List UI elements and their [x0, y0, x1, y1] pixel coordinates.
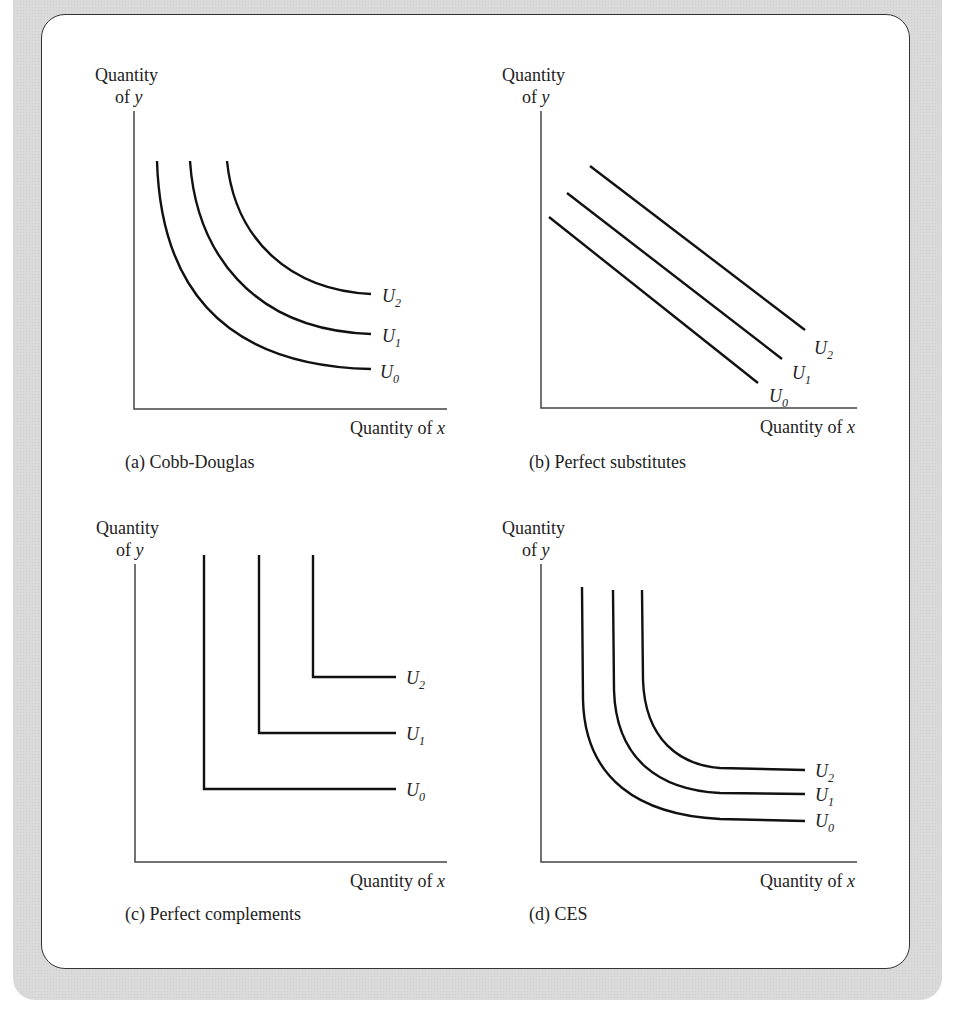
y-axis-label-var: of y	[522, 540, 550, 560]
curve-u2	[227, 161, 371, 294]
y-axis-label: Quantity	[502, 518, 565, 538]
curve-label-u0: U0	[769, 386, 788, 410]
y-axis-label-var: of y	[115, 87, 143, 107]
curve-u2	[642, 590, 805, 770]
curve-label-u2: U2	[815, 761, 834, 785]
chart-perfect-substitutes: Quantity of y U2 U1 U0 Quantity of x (b)…	[502, 65, 857, 473]
y-axis-label: Quantity	[502, 65, 565, 85]
curve-label-u1: U1	[406, 724, 425, 748]
curve-label-u0: U0	[380, 362, 399, 386]
curve-label-u1: U1	[382, 326, 401, 350]
curve-u1	[259, 555, 396, 733]
x-axis-label: Quantity of x	[760, 417, 855, 437]
curve-label-u0: U0	[815, 811, 834, 835]
panel-caption: (c) Perfect complements	[125, 904, 301, 925]
y-axis-label-var: of y	[522, 87, 550, 107]
axes	[541, 111, 857, 408]
curve-label-u2: U2	[814, 338, 833, 362]
curve-u1	[190, 161, 371, 334]
curve-label-u2: U2	[406, 668, 425, 692]
y-axis-label: Quantity	[96, 518, 159, 538]
panel-caption: (d) CES	[529, 904, 588, 925]
chart-cobb-douglas: Quantity of y U2 U1 U0 Quantity of x (a)…	[95, 65, 447, 473]
curve-u2	[590, 166, 805, 330]
x-axis-label: Quantity of x	[760, 871, 855, 891]
curve-u2	[313, 555, 396, 677]
curve-label-u2: U2	[382, 286, 401, 310]
x-axis-label: Quantity of x	[350, 418, 445, 438]
panel-caption: (a) Cobb-Douglas	[125, 452, 254, 473]
curve-u0	[549, 217, 758, 383]
curve-label-u0: U0	[406, 780, 425, 804]
indifference-curves-figure: Quantity of y U2 U1 U0 Quantity of x (a)…	[0, 0, 955, 1016]
axes	[134, 111, 447, 409]
chart-ces: Quantity of y U2 U1 U0 Quantity of x (d)…	[502, 518, 857, 925]
curve-u0	[204, 555, 396, 789]
curve-u1	[567, 193, 782, 359]
curve-u0	[157, 161, 371, 369]
x-axis-label: Quantity of x	[350, 871, 445, 891]
curve-label-u1: U1	[815, 785, 834, 809]
curve-label-u1: U1	[792, 363, 811, 387]
axes	[135, 564, 447, 862]
y-axis-label: Quantity	[95, 65, 158, 85]
y-axis-label-var: of y	[116, 540, 144, 560]
panel-caption: (b) Perfect substitutes	[529, 452, 686, 473]
chart-perfect-complements: Quantity of y U2 U1 U0 Quantity of x (c)…	[96, 518, 447, 925]
